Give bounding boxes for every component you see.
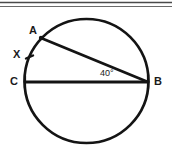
point-label-a: A <box>29 25 37 36</box>
arc-tick-x <box>26 56 33 59</box>
angle-label-40: 40° <box>100 69 114 78</box>
chord-ab <box>41 38 148 82</box>
point-label-x: X <box>13 49 20 60</box>
point-label-c: C <box>10 76 18 87</box>
point-marker-a <box>39 36 43 40</box>
geometry-canvas <box>0 0 172 151</box>
geometry-figure: A X C B 40° <box>0 0 172 151</box>
point-label-b: B <box>154 76 162 87</box>
